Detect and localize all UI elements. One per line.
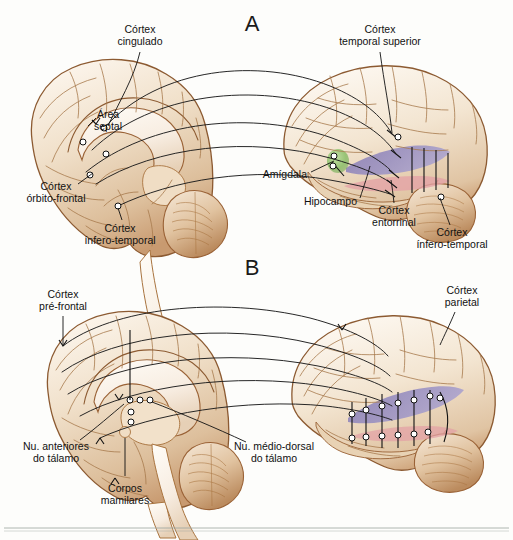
- label-cortex-temporal-superior-line2: temporal superior: [339, 35, 421, 47]
- label-nu-anteriores-talamo-line1: Nu. anteriores: [23, 440, 89, 452]
- label-cortex-infero-temporal-left-line2: ínfero-temporal: [84, 234, 155, 246]
- label-cortex-cingulado-line2: cingulado: [118, 35, 163, 47]
- panel-b: Córtex pré-frontal Córtex parietal Nu. a…: [23, 284, 495, 540]
- panel-letter-a: A: [245, 11, 260, 36]
- label-cortex-parietal-line2: parietal: [445, 296, 479, 308]
- panel-b-right-brain-lateral: [292, 316, 495, 493]
- label-cortex-infero-temporal-left-line1: Córtex: [105, 222, 137, 234]
- label-cortex-pre-frontal-line1: Córtex: [48, 288, 80, 300]
- label-cortex-temporal-superior-line1: Córtex: [365, 23, 397, 35]
- label-cortex-infero-temporal-right-line1: Córtex: [437, 226, 469, 238]
- label-cortex-orbito-frontal-line1: Córtex: [41, 180, 73, 192]
- label-area-septal-line1: Área: [97, 108, 119, 120]
- figure-canvas: A B: [0, 0, 513, 540]
- label-nu-anteriores-talamo-line2: do tálamo: [33, 452, 79, 464]
- label-cortex-infero-temporal-right-line2: ínfero-temporal: [416, 238, 487, 250]
- label-area-septal-line2: septal: [94, 120, 122, 132]
- label-hipocampo: Hipocampo: [304, 195, 357, 207]
- label-nu-medio-dorsal-talamo-line2: do tálamo: [251, 452, 297, 464]
- panel-letter-b: B: [245, 255, 260, 280]
- label-cortex-entorrinal-line2: entorrinal: [372, 216, 416, 228]
- label-corpos-mamilares-line2: mamilares: [101, 494, 149, 506]
- label-cortex-parietal-line1: Córtex: [447, 284, 479, 296]
- label-cortex-cingulado-line1: Córtex: [125, 23, 157, 35]
- label-cortex-pre-frontal-line2: pré-frontal: [39, 300, 87, 312]
- neuroanatomy-figure: A B: [0, 0, 513, 540]
- label-amigdala: Amígdala: [263, 168, 308, 180]
- label-cortex-orbito-frontal-line2: órbito-frontal: [27, 192, 86, 204]
- label-corpos-mamilares-line1: Corpos: [108, 482, 142, 494]
- label-cortex-entorrinal-line1: Córtex: [379, 204, 411, 216]
- label-nu-medio-dorsal-talamo-line1: Nu. médio-dorsal: [234, 440, 314, 452]
